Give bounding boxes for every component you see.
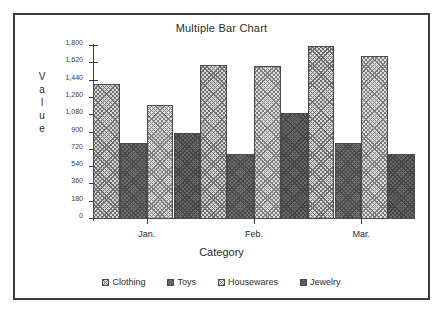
y-axis-title-letter: a <box>33 83 51 96</box>
x-axis-group-label: Feb. <box>245 229 263 239</box>
y-axis-title-letter: V <box>33 70 51 83</box>
legend-swatch-icon <box>167 279 174 286</box>
plot-area: 01803605407209001,0801,2601,4401,6201,80… <box>93 46 415 219</box>
y-axis-tick-label: 1,440 <box>65 74 83 81</box>
bar <box>174 133 201 220</box>
bar <box>147 105 174 219</box>
legend-label: Clothing <box>112 277 145 287</box>
bar <box>335 143 362 219</box>
bar <box>227 154 254 219</box>
y-axis-title-letter: e <box>33 122 51 135</box>
y-axis-tick-label: 180 <box>71 195 83 202</box>
legend-item: Clothing <box>102 277 145 287</box>
y-axis-tick-label: 0 <box>79 212 83 219</box>
y-axis-title-letter: l <box>33 96 51 109</box>
y-axis-tick-label: 1,620 <box>65 56 83 63</box>
legend-item: Housewares <box>218 277 278 287</box>
y-axis-tick-label: 1,800 <box>65 39 83 46</box>
chart-title: Multiple Bar Chart <box>15 22 428 34</box>
bar <box>361 56 388 219</box>
legend-label: Toys <box>177 277 196 287</box>
bar <box>93 84 120 219</box>
legend-label: Housewares <box>228 277 278 287</box>
bar <box>281 113 308 219</box>
bar <box>200 65 227 219</box>
x-axis-group-label: Jan. <box>138 229 155 239</box>
y-axis-tick: 1,800 <box>89 45 98 46</box>
legend-item: Jewelry <box>300 277 341 287</box>
x-axis-group-label: Mar. <box>353 229 371 239</box>
bar <box>120 143 147 219</box>
bar <box>254 66 281 219</box>
y-axis-tick-label: 1,260 <box>65 91 83 98</box>
x-axis-title: Category <box>15 246 428 258</box>
legend-label: Jewelry <box>310 277 341 287</box>
x-axis-tick <box>254 219 255 224</box>
y-axis-title: Value <box>33 70 51 135</box>
y-axis-tick-label: 360 <box>71 177 83 184</box>
legend-swatch-icon <box>102 279 109 286</box>
y-axis-tick: 1,620 <box>89 62 98 63</box>
x-axis-tick <box>361 219 362 224</box>
legend-swatch-icon <box>300 279 307 286</box>
legend-item: Toys <box>167 277 196 287</box>
y-axis-title-letter: u <box>33 109 51 122</box>
bar <box>308 46 335 219</box>
x-axis-tick <box>147 219 148 224</box>
y-axis-tick: 1,440 <box>89 80 98 81</box>
chart-legend: ClothingToysHousewaresJewelry <box>15 277 428 287</box>
y-axis-tick-label: 720 <box>71 143 83 150</box>
y-axis-tick-label: 1,080 <box>65 108 83 115</box>
y-axis-tick-label: 540 <box>71 160 83 167</box>
chart-frame: Multiple Bar Chart Value 018036054072090… <box>13 13 430 300</box>
legend-swatch-icon <box>218 279 225 286</box>
y-axis-tick-label: 900 <box>71 126 83 133</box>
bar <box>388 154 415 219</box>
